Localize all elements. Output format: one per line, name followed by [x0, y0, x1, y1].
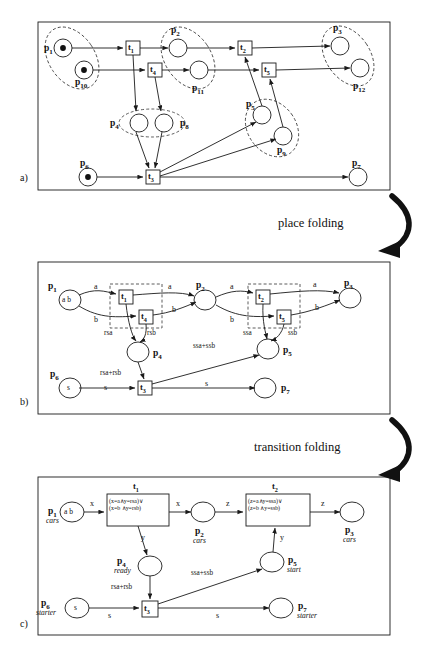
arc-label-c-s2: s: [216, 612, 219, 620]
arc-label-c-z1: z: [226, 500, 230, 508]
arc-label-b-ssa-ssb: ssa+ssb: [193, 343, 215, 350]
arc-label-c-x1: x: [90, 500, 94, 508]
label-b-place-p6: p6: [50, 370, 59, 382]
petri-net-folding-figure: a) b) c) place folding transition foldin…: [0, 0, 429, 657]
fold-ellipse-p2-p11: [150, 17, 226, 99]
label-transition-t5: t5: [264, 65, 270, 76]
arc-label-c-y2: y: [280, 534, 284, 542]
arc-label-b-rsa-rsb: rsa+rsb: [100, 370, 121, 377]
place-p4: [130, 114, 148, 132]
arc-label-b-s1: s: [104, 384, 107, 392]
arc-label-b-rsa: rsa: [104, 330, 112, 337]
arc-label-c-ssa-ssb: ssa+ssb: [191, 570, 213, 577]
fold-ellipse-p4-p8: [119, 109, 185, 137]
label-transition-t2: t2: [240, 43, 246, 54]
arc-label-b-ssa: ssa: [243, 330, 252, 337]
label-b-transition-t3: t3: [140, 383, 146, 394]
label-place-p4: p4: [110, 119, 119, 131]
label-b-place-p1: p1: [48, 282, 57, 294]
label-b-place-p5: p5: [283, 346, 292, 358]
label-place-p11: p11: [192, 84, 204, 96]
place-p12: [351, 59, 369, 77]
arc-label-b-b3: b: [230, 316, 234, 324]
place-p8: [155, 114, 173, 132]
label-b-transition-t2: t2: [258, 292, 264, 303]
place-p2: [169, 39, 187, 57]
label-place-p1: p1: [44, 44, 53, 56]
label-place-p5: p5: [246, 100, 255, 112]
place-folding-label: place folding: [278, 216, 344, 231]
place-p3: [331, 37, 349, 55]
place-c-p6: [65, 598, 89, 618]
label-b-transition-t1: t1: [121, 292, 127, 303]
label-transition-t4: t4: [150, 65, 156, 76]
place-c-p4: [138, 556, 162, 576]
token-p1: [60, 45, 66, 51]
token-p6: [85, 174, 91, 180]
type-c-p6: starter: [36, 609, 56, 617]
arc-label-c-rsa-rsb: rsa+rsb: [111, 584, 132, 591]
fold-box-t1-t4: [110, 284, 162, 328]
type-c-p7: starter: [297, 612, 317, 620]
token-p10: [81, 67, 87, 73]
place-b-p6: [59, 378, 81, 398]
panel-b-letter: b): [20, 396, 28, 407]
arc-label-b-a1: a: [94, 283, 98, 291]
arc-label-c-s1: s: [108, 612, 111, 620]
transition-folding-arrow: [392, 420, 409, 471]
label-b-transition-t4: t4: [141, 312, 147, 323]
arc-label-b-ssb: ssb: [288, 330, 297, 337]
label-b-place-p4: p4: [153, 349, 162, 361]
label-place-p12: p12: [353, 82, 365, 94]
arc-label-b-b2: b: [172, 306, 176, 314]
place-b-p7: [254, 378, 276, 398]
guard-c-t1: (x=a∧y=rsa)∨ (x=b ∧y=rsb): [109, 498, 169, 513]
place-folding-arrowhead: [378, 241, 400, 258]
panel-b-frame: [38, 262, 390, 414]
panel-a-letter: a): [20, 172, 28, 183]
place-c-p3: [340, 502, 364, 522]
place-p5: [253, 106, 271, 124]
place-b-p3: [339, 288, 361, 308]
label-b-transition-t5: t5: [279, 312, 285, 323]
place-b-p2: [194, 290, 216, 310]
marking-b-p1: a b: [62, 296, 71, 304]
place-c-p7: [269, 598, 293, 618]
label-b-place-p7: p7: [281, 384, 290, 396]
marking-b-p6: s: [67, 384, 70, 392]
place-p11: [190, 61, 208, 79]
label-transition-t3: t3: [148, 172, 154, 183]
panel-c-letter: c): [20, 618, 28, 629]
arc-label-b-a2: a: [168, 283, 172, 291]
place-b-p5: [257, 339, 279, 359]
arc-label-b-rsb: rsb: [147, 330, 156, 337]
guard-c-t2: (z=a∧y=ssa)∨ (z=b ∧y=ssb): [248, 498, 310, 513]
label-c-transition-t2: t2: [272, 482, 278, 493]
panel-a-frame: [38, 22, 390, 190]
label-c-transition-t3: t3: [144, 604, 150, 615]
arc-label-b-a4: a: [313, 281, 317, 289]
label-place-p2: p2: [171, 26, 180, 38]
place-c-p2: [191, 502, 215, 522]
arc-label-c-y1: y: [141, 534, 145, 542]
arc-label-b-b1: b: [94, 316, 98, 324]
label-transition-t1: t1: [128, 43, 134, 54]
label-place-p7: p7: [352, 159, 361, 171]
fold-ellipse-p3-p12: [311, 16, 384, 95]
label-place-p10: p10: [75, 78, 87, 90]
arc-label-c-z2: z: [321, 500, 325, 508]
arc-label-b-a3: a: [230, 283, 234, 291]
label-place-p9: p9: [277, 146, 286, 158]
type-c-p3: cars: [343, 536, 356, 544]
label-place-p6: p6: [80, 159, 89, 171]
transition-folding-label: transition folding: [254, 440, 340, 455]
place-c-p5: [260, 552, 284, 572]
arc-label-b-b4: b: [315, 304, 319, 312]
place-folding-arrow: [392, 196, 409, 247]
arc-label-c-x2: x: [176, 500, 180, 508]
marking-c-p1: a b: [64, 508, 73, 516]
label-b-place-p2: p2: [196, 281, 205, 293]
type-c-p5: start: [287, 566, 301, 574]
net-graphics: [0, 0, 429, 657]
fold-ellipse-p1-p10: [34, 17, 110, 99]
